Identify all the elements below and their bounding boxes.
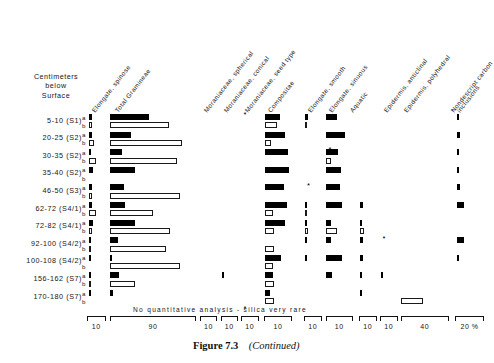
scale-bracket-1 — [110, 316, 196, 321]
figure-7-3: CentimetersbelowSurfaceElongate, spinose… — [0, 0, 494, 363]
bar-b-2-1 — [110, 158, 177, 164]
bar-a-5-6 — [305, 202, 307, 208]
sub-row-label-b-3: b — [82, 175, 86, 182]
bar-a-3-1 — [110, 167, 135, 173]
axis-title-line: Surface — [22, 91, 90, 100]
bar-a-7-11 — [457, 237, 465, 243]
bar-a-0-11 — [457, 114, 460, 120]
bar-a-6-8 — [360, 220, 362, 226]
depth-label-3: 35-40 (S2) — [10, 168, 82, 177]
axis-title-line: below — [22, 81, 90, 90]
bar-a-3-0 — [89, 167, 94, 173]
bar-a-8-1 — [110, 255, 112, 261]
sub-row-label-b-6: b — [82, 227, 86, 234]
scale-bracket-10 — [401, 316, 450, 321]
bar-a-7-7 — [326, 237, 331, 243]
bar-b-6-6 — [305, 228, 308, 234]
bar-b-10-5 — [265, 298, 274, 304]
depth-label-4: 46-50 (S3) — [10, 186, 82, 195]
bar-b-5-5 — [265, 210, 273, 216]
depth-label-8: 100-108 (S4/2) — [10, 256, 82, 265]
bar-a-0-6 — [305, 114, 308, 120]
column-header-7: Elongate, sinuous — [327, 63, 369, 113]
depth-label-0: 5-10 (S1) — [10, 116, 82, 125]
sub-row-label-a-3: a — [82, 166, 86, 173]
column-header-0: Elongate, spinose — [90, 63, 132, 113]
scale-bracket-4 — [241, 316, 259, 321]
bar-a-5-8 — [360, 202, 363, 208]
bar-b-1-1 — [110, 140, 182, 146]
scale-bracket-0 — [87, 316, 107, 321]
bar-a-8-0 — [89, 255, 91, 261]
sub-row-label-a-4: a — [82, 184, 86, 191]
bar-a-9-3 — [222, 272, 224, 278]
bar-b-2-0 — [89, 158, 97, 164]
scale-bracket-6 — [304, 316, 322, 321]
sub-row-label-b-1: b — [82, 139, 86, 146]
bar-a-8-6 — [305, 255, 307, 261]
bar-a-8-5 — [265, 255, 281, 261]
bar-b-7-0 — [89, 246, 91, 252]
scale-bracket-3 — [221, 316, 239, 321]
bar-b-0-6 — [305, 122, 307, 128]
bar-a-6-7 — [326, 220, 331, 226]
sub-row-label-a-10: a — [82, 290, 86, 297]
marker-asterisk-3: * — [383, 236, 386, 242]
depth-label-5: 62-72 (S4/1) — [10, 204, 82, 213]
bar-a-4-5 — [265, 184, 284, 190]
bar-b-4-0 — [89, 193, 93, 199]
column-header-8: Aquatic — [348, 90, 369, 114]
sub-row-label-a-0: a — [82, 114, 86, 121]
bar-a-7-0 — [89, 237, 92, 243]
bar-b-9-5 — [265, 281, 274, 287]
bar-b-7-5 — [265, 246, 274, 252]
bar-a-3-5 — [265, 167, 289, 173]
bar-b-5-0 — [89, 210, 96, 216]
bar-b-9-1 — [110, 281, 135, 287]
bar-b-10-10 — [401, 298, 423, 304]
scale-bracket-5 — [264, 316, 292, 321]
bar-a-5-0 — [89, 202, 93, 208]
bar-a-7-6 — [305, 237, 307, 243]
bar-a-3-11 — [457, 167, 459, 173]
sub-row-label-a-6: a — [82, 219, 86, 226]
scale-bracket-8 — [359, 316, 377, 321]
bar-a-1-7 — [326, 132, 345, 138]
bar-a-6-5 — [265, 220, 285, 226]
bar-a-1-0 — [89, 132, 93, 138]
bar-b-0-1 — [110, 122, 169, 128]
bar-b-6-7 — [326, 228, 337, 234]
sub-row-label-a-9: a — [82, 272, 86, 279]
bar-b-6-8 — [360, 228, 364, 234]
depth-label-7: 92-100 (S4/2) — [10, 239, 82, 248]
bar-a-8-8 — [360, 255, 363, 261]
bar-a-5-7 — [326, 202, 342, 208]
bar-a-6-6 — [305, 220, 307, 226]
bar-a-2-0 — [89, 149, 92, 155]
sub-row-label-b-5: b — [82, 210, 86, 217]
bar-a-2-11 — [457, 149, 459, 155]
bar-a-6-1 — [110, 220, 135, 226]
sub-row-label-b-2: b — [82, 157, 86, 164]
bar-a-10-1 — [110, 290, 113, 296]
scale-bracket-9 — [380, 316, 398, 321]
bar-b-8-5 — [265, 263, 273, 269]
bar-b-7-1 — [110, 246, 166, 252]
no-quantitative-note: No quantitative analysis - silica very r… — [133, 306, 307, 313]
axis-title-line: Centimeters — [22, 72, 90, 81]
sub-row-label-b-7: b — [82, 245, 86, 252]
sub-row-label-b-4: b — [82, 192, 86, 199]
column-header-6: Elongate, smooth — [306, 64, 347, 113]
figure-caption-note: (Continued) — [249, 340, 300, 351]
bar-a-4-1 — [110, 184, 124, 190]
bar-b-2-7 — [326, 158, 331, 164]
sub-row-label-a-1: a — [82, 131, 86, 138]
marker-asterisk-0: * — [244, 112, 247, 118]
bar-a-9-5 — [265, 272, 273, 278]
bar-b-5-6 — [305, 210, 307, 216]
scale-label-11: 20 % — [443, 323, 494, 330]
sub-row-label-a-7: a — [82, 237, 86, 244]
bar-a-7-8 — [360, 237, 363, 243]
marker-asterisk-2: * — [329, 147, 332, 153]
bar-a-4-7 — [326, 184, 340, 190]
